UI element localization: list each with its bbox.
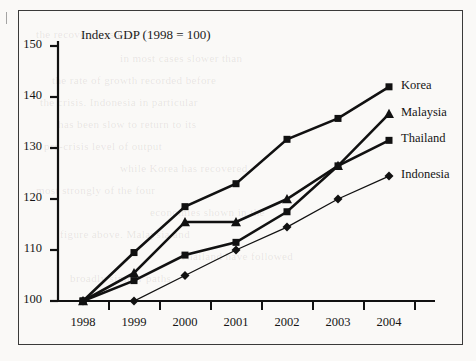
x-tick-label: 1999 <box>112 315 156 330</box>
line-chart-plot <box>19 11 464 346</box>
y-tick-label: 130 <box>10 139 42 154</box>
x-tick-label: 2004 <box>367 315 411 330</box>
series-label-korea: Korea <box>401 78 432 93</box>
y-tick-label: 150 <box>10 37 42 52</box>
x-tick-label: 1998 <box>61 315 105 330</box>
x-tick-label: 2001 <box>214 315 258 330</box>
series-label-indonesia: Indonesia <box>401 167 450 182</box>
series-label-malaysia: Malaysia <box>401 105 447 120</box>
series-korea <box>80 83 393 304</box>
y-tick-label: 120 <box>10 190 42 205</box>
series-malaysia <box>78 109 394 305</box>
page-margin-mark <box>6 12 7 24</box>
chart-frame: Index GDP (1998 = 100) 10011012013014015… <box>18 10 463 345</box>
x-tick-label: 2003 <box>316 315 360 330</box>
series-label-thailand: Thailand <box>401 131 445 146</box>
y-tick-label: 110 <box>10 241 42 256</box>
y-tick-label: 100 <box>10 292 42 307</box>
x-tick-label: 2002 <box>265 315 309 330</box>
x-tick-label: 2000 <box>163 315 207 330</box>
series-indonesia <box>79 172 394 306</box>
y-tick-label: 140 <box>10 88 42 103</box>
